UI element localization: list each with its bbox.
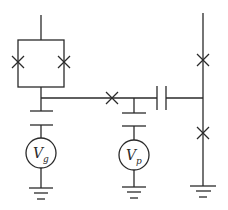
source-subscript-g: g — [43, 154, 49, 164]
gate-capacitor-icon — [30, 111, 53, 125]
plunger-capacitor-icon — [122, 113, 146, 126]
ground-icon-middle — [122, 187, 146, 198]
circuit-diagram: V g V p — [0, 0, 228, 210]
coupling-capacitor-icon — [157, 86, 166, 110]
ground-icon-right — [190, 186, 216, 197]
plunger-voltage-source: V p — [119, 140, 149, 170]
gate-voltage-source: V g — [26, 138, 56, 168]
junction-loop — [18, 40, 64, 87]
ground-icon-left — [29, 188, 53, 199]
source-subscript-p: p — [136, 156, 142, 166]
